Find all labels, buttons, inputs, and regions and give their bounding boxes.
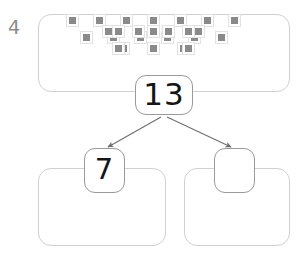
counter-core [96, 17, 103, 24]
counter-core [185, 45, 192, 52]
counter-core [185, 28, 192, 35]
counter-row [112, 42, 195, 55]
counter-core [115, 45, 122, 52]
counter-core [177, 17, 184, 24]
counter-square [182, 42, 195, 55]
arrow-to-left-part [108, 117, 161, 147]
right-part-counter-group [0, 25, 307, 55]
counter-square [147, 25, 160, 38]
counter-square [182, 25, 195, 38]
arrow-to-right-part [167, 117, 231, 147]
left-part-bond-value: 7 [95, 155, 114, 184]
counter-core [150, 45, 157, 52]
counter-core [204, 17, 211, 24]
counter-row [112, 25, 195, 38]
counter-square [112, 42, 125, 55]
counter-core [123, 17, 130, 24]
total-bond-value: 13 [143, 79, 184, 110]
right-part-bond-box[interactable] [214, 148, 255, 193]
counter-square [147, 42, 160, 55]
left-part-bond-box[interactable]: 7 [84, 148, 125, 193]
total-bond-box[interactable]: 13 [135, 75, 193, 115]
counter-square [112, 25, 125, 38]
counter-core [115, 28, 122, 35]
counter-core [150, 17, 157, 24]
counter-core [69, 17, 76, 24]
counter-core [231, 17, 238, 24]
counter-core [150, 28, 157, 35]
number-bond-worksheet: 4 13 7 [0, 0, 307, 255]
